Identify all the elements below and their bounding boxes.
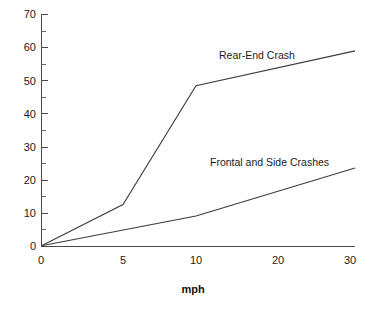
chart-page: 0 10 20 30 40 50 60 70 0 5 10 20 30 Rear…: [0, 0, 376, 314]
x-tick-label-0: 0: [38, 254, 44, 266]
series-label-frontal-and-side-crashes: Frontal and Side Crashes: [210, 156, 329, 168]
y-tick-label-10: 10: [24, 207, 36, 219]
y-tick-label-40: 40: [24, 108, 36, 120]
series-line-rear-end-crash: [42, 51, 356, 246]
x-axis-title: mph: [181, 283, 205, 295]
y-tick-label-60: 60: [24, 41, 36, 53]
line-chart: 0 10 20 30 40 50 60 70 0 5 10 20 30 Rear…: [0, 0, 376, 314]
x-tick-label-10: 10: [190, 254, 202, 266]
x-tick-label-30: 30: [344, 254, 356, 266]
y-tick-label-20: 20: [24, 174, 36, 186]
y-tick-label-0: 0: [30, 240, 36, 252]
series-label-rear-end-crash: Rear-End Crash: [219, 49, 295, 61]
x-tick-label-5: 5: [120, 254, 126, 266]
x-tick-label-20: 20: [272, 254, 284, 266]
y-tick-label-30: 30: [24, 141, 36, 153]
y-axis-minor-ticks: [42, 31, 46, 230]
y-tick-label-50: 50: [24, 75, 36, 87]
y-tick-label-70: 70: [24, 8, 36, 20]
series-line-frontal-and-side-crashes: [42, 168, 356, 246]
